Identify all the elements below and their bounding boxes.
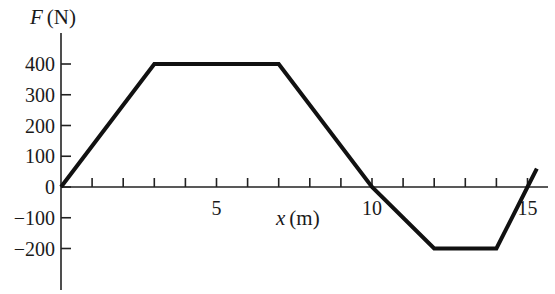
y-tick-label: −100: [14, 207, 55, 229]
y-tick-label: 300: [25, 84, 55, 106]
x-ticks: [92, 178, 527, 187]
x-axis-title: x(m): [275, 206, 320, 230]
y-tick-label: 200: [25, 115, 55, 137]
axes: [61, 33, 548, 290]
y-tick-label: 0: [45, 176, 55, 198]
x-tick-label: 10: [362, 197, 382, 219]
y-axis-title: F(N): [29, 5, 76, 29]
force-position-chart: 4003002001000−100−20051015 F(N) x(m): [0, 0, 555, 294]
y-tick-label: 400: [25, 53, 55, 75]
y-tick-label: 100: [25, 145, 55, 167]
x-tick-label: 5: [212, 197, 222, 219]
y-tick-label: −200: [14, 238, 55, 260]
y-ticks: [61, 64, 71, 249]
